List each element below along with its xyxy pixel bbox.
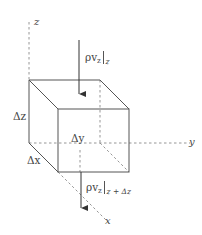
flux-symbol: ρv: [85, 51, 97, 63]
evaluation-bar: [103, 51, 104, 64]
delta-z-label: Δz: [13, 111, 26, 122]
top-right-diagonal: [100, 80, 129, 109]
flux-symbol: ρv: [86, 181, 98, 193]
z-axis-label: z: [34, 17, 39, 27]
top-left-diagonal: [29, 80, 58, 109]
outflow-flux-label: ρvzz + Δz: [86, 181, 131, 196]
cube-diagram: [0, 0, 202, 235]
flux-subscript: z: [98, 187, 102, 195]
flux-evaluated-at: z + Δz: [107, 187, 131, 196]
delta-y-label: Δy: [71, 133, 85, 144]
inflow-flux-label: ρvzz: [85, 51, 110, 66]
x-axis-line: [58, 172, 108, 222]
x-axis-label: x: [105, 216, 111, 226]
hidden-bottom-right-diagonal: [100, 143, 129, 172]
flux-subscript: z: [97, 57, 101, 65]
delta-x-label: Δx: [27, 155, 41, 166]
flux-arrows: [79, 40, 81, 208]
flux-evaluated-at: z: [106, 57, 110, 66]
front-face: [58, 109, 129, 172]
y-axis-label: y: [189, 137, 195, 147]
evaluation-bar: [104, 181, 105, 194]
